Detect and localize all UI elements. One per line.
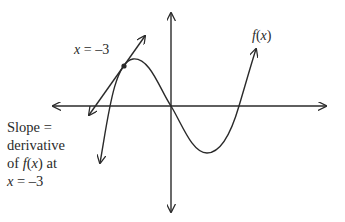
point-label-value: –3 [95, 42, 109, 57]
note-value: = –3 [13, 173, 43, 189]
slope-annotation: Slope = derivative of f(x) at x = –3 [7, 118, 65, 190]
function-label-arg: x [261, 28, 267, 43]
note-at: at [43, 155, 57, 171]
note-line-3: of f(x) at [7, 154, 65, 172]
point-label: x = –3 [74, 42, 109, 58]
note-line-1: Slope = [7, 118, 65, 136]
tangent-point [121, 63, 126, 68]
function-label: f(x) [252, 28, 271, 44]
note-line-2: derivative [7, 136, 65, 154]
note-line-4: x = –3 [7, 172, 65, 190]
note-of: of [7, 155, 23, 171]
point-label-eq: = [80, 42, 95, 57]
function-label-name: f [252, 28, 256, 43]
